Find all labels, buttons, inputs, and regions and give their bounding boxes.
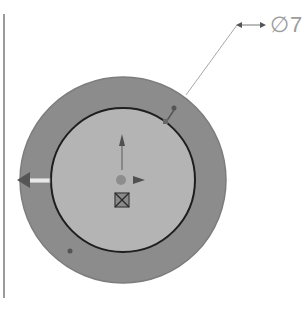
diameter-dimension-label[interactable]: ∅7 bbox=[270, 12, 303, 38]
origin-icon bbox=[116, 175, 126, 185]
control-point-handle[interactable] bbox=[163, 119, 168, 124]
model-canvas[interactable] bbox=[0, 0, 305, 313]
control-point-top-right[interactable] bbox=[172, 106, 177, 111]
dimension-leader-line bbox=[186, 25, 237, 95]
graphics-viewport[interactable]: ∅7 bbox=[0, 0, 305, 313]
dimension-arrows-icon[interactable] bbox=[236, 22, 266, 28]
reference-triad-icon bbox=[115, 193, 129, 207]
control-point-bottom-left[interactable] bbox=[68, 249, 73, 254]
